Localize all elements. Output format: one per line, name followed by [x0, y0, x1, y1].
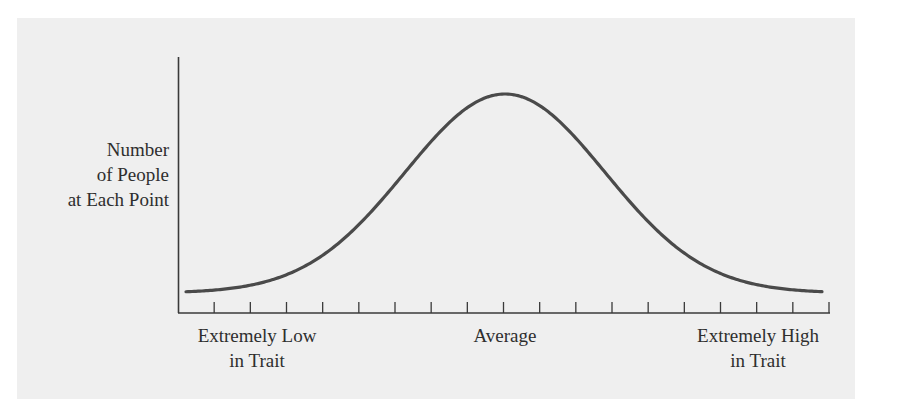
normal-distribution-curve: [186, 94, 822, 292]
x-label-extremely-high: Extremely High in Trait: [680, 323, 836, 373]
y-label-line-3: at Each Point: [68, 187, 169, 212]
x-axis-ticks: [214, 302, 829, 313]
y-axis-label: Number of People at Each Point: [68, 137, 169, 212]
y-label-line-2: of People: [68, 162, 169, 187]
x-label-extremely-low: Extremely Low in Trait: [180, 323, 334, 373]
x-label-average-text: Average: [455, 323, 555, 348]
x-label-low-line-2: in Trait: [180, 348, 334, 373]
x-label-average: Average: [455, 323, 555, 348]
x-label-low-line-1: Extremely Low: [180, 323, 334, 348]
x-label-high-line-2: in Trait: [680, 348, 836, 373]
x-label-high-line-1: Extremely High: [680, 323, 836, 348]
y-label-line-1: Number: [68, 137, 169, 162]
